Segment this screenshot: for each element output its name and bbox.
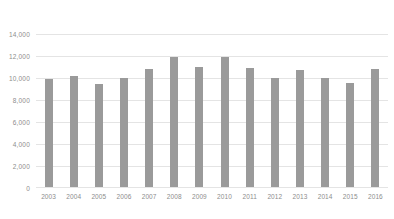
bar-series [36, 26, 388, 188]
x-axis-tick-label: 2006 [111, 193, 136, 209]
bar [296, 70, 304, 187]
bar [145, 69, 153, 187]
y-axis-tick-label: 6,000 [13, 119, 30, 126]
bar-slot [287, 26, 312, 188]
x-axis-tick-label: 2014 [313, 193, 338, 209]
y-axis-tick-label: 10,000 [9, 75, 30, 82]
y-axis-tick-label: 14,000 [9, 31, 30, 38]
bar-slot [212, 26, 237, 188]
x-axis-tick-label: 2013 [287, 193, 312, 209]
bar-slot [237, 26, 262, 188]
bar [95, 84, 103, 187]
bar-slot [111, 26, 136, 188]
bar-slot [61, 26, 86, 188]
bar-slot [137, 26, 162, 188]
y-axis: 14,000 12,000 10,000 8,000 6,000 4,000 2… [0, 0, 34, 219]
bar-slot [187, 26, 212, 188]
x-axis-tick-label: 2005 [86, 193, 111, 209]
x-axis-tick-label: 2016 [363, 193, 388, 209]
y-axis-tick-label: 8,000 [13, 97, 30, 104]
plot-area [36, 26, 388, 188]
bar [271, 78, 279, 187]
y-axis-tick-label: 12,000 [9, 53, 30, 60]
bar [221, 57, 229, 187]
x-axis-tick-label: 2011 [237, 193, 262, 209]
bar-slot [338, 26, 363, 188]
bar [371, 69, 379, 187]
x-axis-tick-label: 2015 [338, 193, 363, 209]
bar-slot [363, 26, 388, 188]
bar [120, 78, 128, 187]
y-axis-tick-label: 2,000 [13, 163, 30, 170]
x-axis-tick-label: 2012 [262, 193, 287, 209]
bar-slot [36, 26, 61, 188]
x-axis-tick-label: 2007 [137, 193, 162, 209]
y-axis-tick-label: 4,000 [13, 141, 30, 148]
x-axis-tick-label: 2009 [187, 193, 212, 209]
bar-slot [162, 26, 187, 188]
x-axis-tick-label: 2010 [212, 193, 237, 209]
bar-slot [313, 26, 338, 188]
bar [346, 83, 354, 188]
bar [70, 76, 78, 187]
bar [246, 68, 254, 187]
bar [170, 57, 178, 187]
x-axis-tick-label: 2004 [61, 193, 86, 209]
x-axis: 2003 2004 2005 2006 2007 2008 2009 2010 … [36, 193, 388, 209]
bar [195, 67, 203, 187]
bar [321, 78, 329, 187]
x-axis-tick-label: 2008 [162, 193, 187, 209]
bar-slot [86, 26, 111, 188]
x-axis-tick-label: 2003 [36, 193, 61, 209]
y-axis-tick-label: 0 [26, 185, 30, 192]
bar [45, 79, 53, 187]
bar-slot [262, 26, 287, 188]
bar-chart: 14,000 12,000 10,000 8,000 6,000 4,000 2… [0, 0, 394, 219]
